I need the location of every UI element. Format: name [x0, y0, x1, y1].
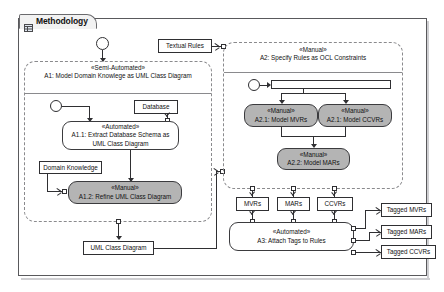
- action-a2-1-mvrs-name: A2.1: Model MVRs: [255, 116, 308, 124]
- arrowhead-a1-to-umlcd: [116, 236, 122, 240]
- action-a2-2[interactable]: «Manual» A2.2: Model MARs: [277, 148, 350, 170]
- object-tagged-mars-label: Tagged MARs: [387, 228, 427, 236]
- partition-a1-header: «Semi-Automated» A1: Model Domain Knowle…: [30, 64, 206, 80]
- partition-a2-divider: [224, 72, 402, 73]
- object-ccvrs[interactable]: CCVRs: [317, 197, 353, 211]
- object-tagged-ccvrs[interactable]: Tagged CCVRs: [381, 245, 436, 259]
- fork-node-a2: [271, 80, 391, 89]
- frame-shadow-right: [427, 21, 429, 280]
- flow-a3-to-taggedmvrs-v: [365, 210, 366, 228]
- arrowhead-mars-to-a3: [290, 211, 297, 218]
- object-database[interactable]: Database: [134, 100, 178, 114]
- object-tagged-mvrs-label: Tagged MVRs: [387, 206, 427, 214]
- object-tagged-ccvrs-label: Tagged CCVRs: [387, 248, 430, 256]
- object-domain-knowledge[interactable]: Domain Knowledge: [39, 161, 102, 174]
- diagram-grid-icon: [24, 18, 33, 26]
- initial-node-a1: [96, 37, 109, 50]
- flow-umlcd-right: [154, 248, 217, 249]
- flow-a3-to-taggedmars-v: [369, 232, 370, 240]
- arrowhead-textualrules: [215, 43, 222, 50]
- diagram-title: Methodology: [36, 17, 88, 26]
- arrowhead-umlcd-to-a2: [214, 168, 221, 175]
- action-a2-1-mvrs-stereotype: «Manual»: [267, 107, 295, 115]
- action-a1-2[interactable]: «Manual» A1.2: Refine UML Class Diagram: [68, 181, 182, 204]
- partition-a2-name: A2: Specify Rules as OCL Constraints: [260, 54, 366, 61]
- object-mvrs-label: MVRs: [244, 200, 261, 208]
- action-a1-1-stereotype: «Automated»: [102, 123, 139, 131]
- action-a2-1-ccvrs[interactable]: «Manual» A2.1: Model CCVRs: [318, 104, 392, 127]
- partition-a1-stereotype: «Semi-Automated»: [91, 64, 145, 71]
- flow-a3-to-taggedmars-h1: [356, 240, 370, 241]
- object-textual-rules-label: Textual Rules: [166, 42, 204, 50]
- partition-a2-header: «Manual» A2: Specify Rules as OCL Constr…: [228, 46, 398, 62]
- arrowhead-database: [164, 113, 171, 120]
- flow-umlcd-up: [216, 171, 217, 248]
- action-a1-2-stereotype: «Manual»: [111, 184, 139, 192]
- object-ccvrs-label: CCVRs: [325, 200, 346, 208]
- action-a2-2-name: A2.2: Model MARs: [287, 159, 340, 167]
- arrowhead-mvrs-to-a3: [249, 211, 256, 218]
- partition-a1-name: A1: Model Domain Knowlege as UML Class D…: [44, 72, 191, 79]
- object-mvrs[interactable]: MVRs: [236, 197, 269, 211]
- object-uml-class-diagram-label: UML Class Diagram: [90, 244, 146, 252]
- action-a1-1-name: A1.1: Extract Database Schema as UML Cla…: [66, 131, 175, 147]
- arrowhead-ccvrs-to-a3: [331, 211, 338, 218]
- initial-node-a1-inner: [50, 100, 62, 112]
- flow-ccvrs-down: [345, 127, 346, 136]
- object-tagged-mars[interactable]: Tagged MARs: [381, 225, 432, 239]
- object-domain-knowledge-label: Domain Knowledge: [43, 164, 98, 172]
- object-mars[interactable]: MARs: [277, 197, 310, 211]
- diagram-canvas: Methodology «Semi-Automated» A1: Model D…: [0, 0, 444, 292]
- arrowhead-domain-knowledge: [57, 188, 64, 195]
- action-a1-2-name: A1.2: Refine UML Class Diagram: [79, 193, 172, 201]
- action-a3-name: A3: Attach Tags to Rules: [257, 237, 326, 245]
- action-a2-2-stereotype: «Manual»: [300, 151, 328, 159]
- partition-a1-divider: [25, 93, 211, 94]
- frame-shadow-bottom: [21, 278, 430, 280]
- flow-a3-to-taggedmvrs-h1: [356, 228, 366, 229]
- object-textual-rules[interactable]: Textual Rules: [158, 39, 212, 53]
- action-a1-1[interactable]: «Automated» A1.1: Extract Database Schem…: [62, 121, 179, 150]
- flow-a1inner-h: [62, 106, 90, 107]
- object-uml-class-diagram[interactable]: UML Class Diagram: [83, 241, 154, 255]
- initial-node-a2-inner: [248, 79, 260, 91]
- action-a2-1-ccvrs-name: A2.1: Model CCVRs: [327, 116, 383, 124]
- flow-mvrs-down: [281, 127, 282, 136]
- diagram-title-tab[interactable]: Methodology: [19, 14, 97, 29]
- flow-a11-to-a12: [130, 150, 131, 180]
- action-a3-stereotype: «Automated»: [273, 228, 310, 236]
- action-a3[interactable]: «Automated» A3: Attach Tags to Rules: [229, 222, 354, 251]
- object-tagged-mvrs[interactable]: Tagged MVRs: [381, 203, 432, 217]
- partition-a2-stereotype: «Manual»: [299, 46, 327, 53]
- flow-dk-v: [47, 174, 48, 191]
- object-database-label: Database: [143, 103, 170, 111]
- object-mars-label: MARs: [285, 200, 302, 208]
- action-a2-1-ccvrs-stereotype: «Manual»: [341, 107, 369, 115]
- action-a2-1-mvrs[interactable]: «Manual» A2.1: Model MVRs: [244, 104, 318, 127]
- flow-fork-bus: [281, 93, 345, 94]
